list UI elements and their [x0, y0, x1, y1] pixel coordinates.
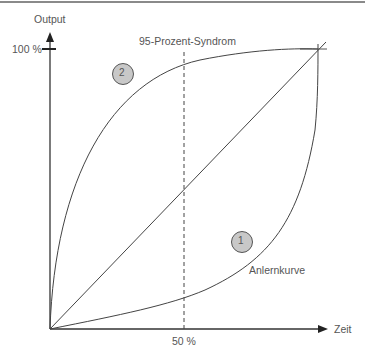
- x-tick-label: 50 %: [172, 335, 196, 347]
- y-tick-label: 100 %: [12, 43, 42, 55]
- y-axis-label: Output: [34, 13, 66, 25]
- y-axis-arrow-icon: [46, 32, 54, 42]
- learning-curve-diagram: [0, 0, 365, 354]
- dashed-line-label: 95-Prozent-Syndrom: [139, 35, 236, 47]
- badge-1-label: 1: [238, 235, 244, 246]
- badge-2-label: 2: [119, 67, 125, 78]
- x-axis-label: Zeit: [334, 323, 352, 335]
- x-axis-arrow-icon: [318, 325, 328, 333]
- linear-curve: [50, 42, 326, 329]
- curve-1-name: Anlernkurve: [249, 264, 305, 276]
